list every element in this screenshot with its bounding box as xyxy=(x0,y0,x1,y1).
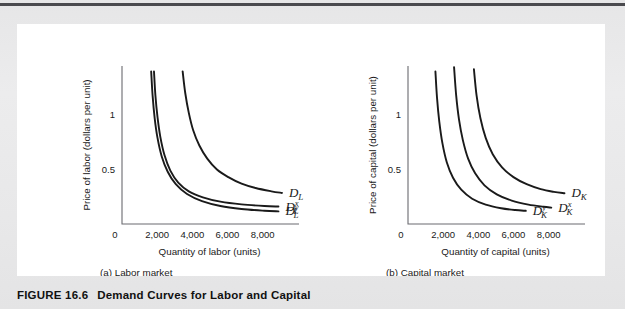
origin-label: 0 xyxy=(112,229,117,240)
x-tick-label: 6,000 xyxy=(216,229,240,240)
figure-caption: FIGURE 16.6 Demand Curves for Labor and … xyxy=(17,286,605,304)
panel-subcaption: (b) Capital market xyxy=(386,267,464,276)
x-tick-label: 2,000 xyxy=(431,229,455,240)
x-tick-label: 4,000 xyxy=(180,229,204,240)
x-tick-label: 4,000 xyxy=(466,229,490,240)
figure-caption-number: FIGURE 16.6 xyxy=(17,289,88,301)
y-tick-label: 1 xyxy=(396,109,401,120)
panel-subcaption: (a) Labor market xyxy=(100,267,173,276)
y-tick-label: 1 xyxy=(110,109,115,120)
chart-panel-labor-market: 0.5102,0004,0006,0008,000Quantity of lab… xyxy=(17,24,311,276)
figure-caption-text: Demand Curves for Labor and Capital xyxy=(97,289,310,301)
labor-market-plot: 0.5102,0004,0006,0008,000Quantity of lab… xyxy=(17,24,311,276)
chart-panel-capital-market: 0.5102,0004,0006,0008,000Quantity of cap… xyxy=(303,24,597,276)
demand-curve xyxy=(435,71,525,210)
demand-curve xyxy=(474,69,565,193)
origin-label: 0 xyxy=(398,229,403,240)
y-axis-title: Price of capital (dollars per unit) xyxy=(367,76,378,214)
y-axis-title: Price of labor (dollars per unit) xyxy=(81,79,92,210)
demand-curve xyxy=(454,67,551,208)
demand-curve xyxy=(183,71,282,192)
x-tick-label: 8,000 xyxy=(537,229,561,240)
curve-label: DyK xyxy=(532,202,548,220)
demand-curve xyxy=(151,71,278,211)
curve-label: DK xyxy=(570,185,587,202)
page-top-rule xyxy=(0,3,625,6)
x-axis-title: Quantity of capital (units) xyxy=(441,246,549,257)
demand-curve xyxy=(154,71,278,206)
curve-label: DyL xyxy=(284,202,298,220)
curve-label: DxK xyxy=(557,199,573,217)
x-axis-title: Quantity of labor (units) xyxy=(159,246,261,257)
y-tick-label: 0.5 xyxy=(102,164,115,175)
y-tick-label: 0.5 xyxy=(388,164,401,175)
capital-market-plot: 0.5102,0004,0006,0008,000Quantity of cap… xyxy=(303,24,597,276)
figure-panel: 0.5102,0004,0006,0008,000Quantity of lab… xyxy=(17,24,605,276)
x-tick-label: 2,000 xyxy=(145,229,169,240)
x-tick-label: 6,000 xyxy=(502,229,526,240)
x-tick-label: 8,000 xyxy=(251,229,275,240)
